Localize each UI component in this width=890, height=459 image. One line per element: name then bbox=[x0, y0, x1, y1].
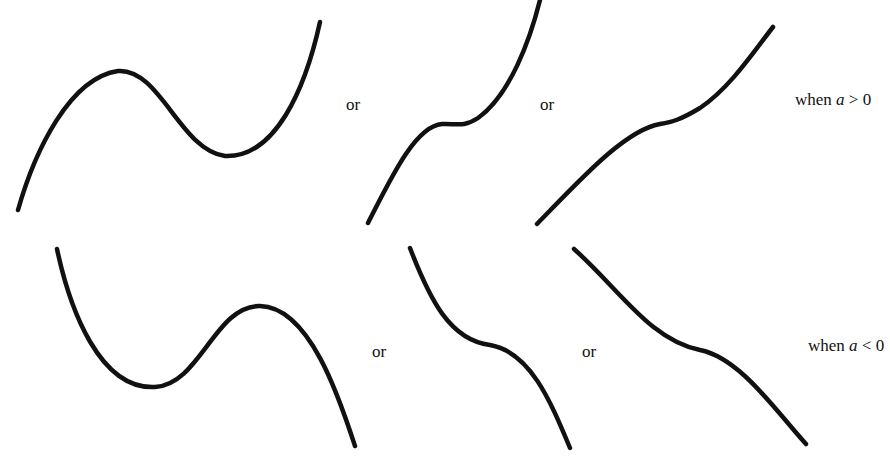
separator-or: or bbox=[540, 96, 554, 113]
cubic-curves-diagram bbox=[0, 0, 890, 459]
separator-or: or bbox=[346, 96, 360, 113]
curve-no-turning-points-falling bbox=[574, 249, 806, 444]
separator-or: or bbox=[582, 343, 596, 360]
curve-two-turning-points-falling bbox=[57, 249, 355, 446]
curve-stationary-inflection-rising bbox=[368, 0, 540, 223]
condition-label-a-positive: when a > 0 bbox=[795, 91, 871, 108]
separator-or: or bbox=[372, 343, 386, 360]
curve-two-turning-points-rising bbox=[18, 22, 320, 210]
condition-label-a-negative: when a < 0 bbox=[808, 337, 884, 354]
curve-no-turning-points-rising bbox=[537, 27, 773, 224]
curve-stationary-inflection-falling bbox=[410, 248, 570, 448]
